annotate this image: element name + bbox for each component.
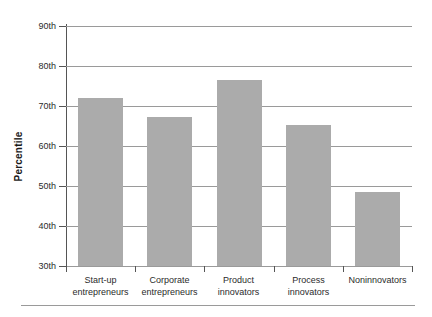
- category-label-line-2: entrepreneurs: [135, 287, 204, 299]
- gridline: [66, 266, 412, 267]
- y-axis-tick-label: 90th: [10, 21, 56, 31]
- x-axis-tick: [343, 266, 344, 272]
- x-axis-tick: [274, 266, 275, 272]
- gridline: [66, 66, 412, 67]
- y-axis-tick: [59, 106, 66, 107]
- y-axis-tick-label: 60th: [10, 141, 56, 151]
- y-axis-tick-label: 50th: [10, 181, 56, 191]
- gridline: [66, 26, 412, 27]
- bar: [355, 192, 400, 266]
- y-axis-tick: [59, 266, 66, 267]
- category-label-line-1: Corporate: [149, 275, 189, 285]
- x-axis-tick: [135, 266, 136, 272]
- x-axis-tick: [66, 266, 67, 272]
- x-axis-category-label: Processinnovators: [274, 275, 343, 298]
- x-axis-tick: [412, 266, 413, 272]
- category-label-line-1: Process: [292, 275, 325, 285]
- bar: [147, 117, 192, 266]
- bar-chart: Percentile 90th80th70th60th50th40th30th …: [0, 0, 432, 317]
- y-axis-tick-label: 80th: [10, 61, 56, 71]
- bar: [286, 125, 331, 266]
- category-label-line-1: Start-up: [84, 275, 116, 285]
- y-axis-tick: [59, 186, 66, 187]
- y-axis-tick: [59, 66, 66, 67]
- y-axis-tick-label: 40th: [10, 221, 56, 231]
- x-axis-category-label: Start-upentrepreneurs: [66, 275, 135, 298]
- category-label-line-2: innovators: [274, 287, 343, 299]
- category-label-line-2: entrepreneurs: [66, 287, 135, 299]
- y-axis-tick: [59, 226, 66, 227]
- plot-area: [66, 26, 412, 266]
- x-axis-category-label: Corporateentrepreneurs: [135, 275, 204, 298]
- x-axis-category-label: Noninnovators: [343, 275, 412, 287]
- bar: [217, 80, 262, 266]
- x-axis-tick: [204, 266, 205, 272]
- y-axis-tick-labels: 90th80th70th60th50th40th30th: [6, 0, 56, 317]
- category-label-line-1: Product: [223, 275, 254, 285]
- bar: [78, 98, 123, 266]
- bottom-separator-rule: [21, 305, 415, 306]
- category-label-line-2: innovators: [204, 287, 273, 299]
- category-label-line-1: Noninnovators: [348, 275, 406, 285]
- y-axis-tick-label: 70th: [10, 101, 56, 111]
- y-axis-tick-label: 30th: [10, 261, 56, 271]
- y-axis-tick: [59, 26, 66, 27]
- x-axis-category-label: Productinnovators: [204, 275, 273, 298]
- y-axis-tick: [59, 146, 66, 147]
